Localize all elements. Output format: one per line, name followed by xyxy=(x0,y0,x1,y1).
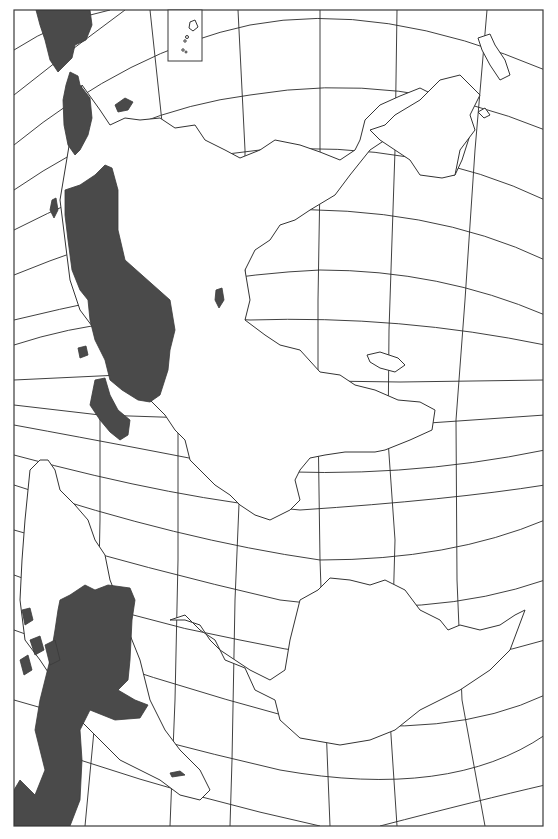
shaded-island-3 xyxy=(78,346,88,358)
inset-box xyxy=(168,10,202,61)
shaded-island-2 xyxy=(50,198,58,218)
shaded-island-1 xyxy=(115,98,133,112)
shaded-island-sw-4 xyxy=(20,655,32,675)
southern-continent xyxy=(170,578,525,745)
shaded-region-north-1 xyxy=(36,10,92,72)
island-east xyxy=(367,352,405,372)
map-canvas xyxy=(0,0,558,839)
